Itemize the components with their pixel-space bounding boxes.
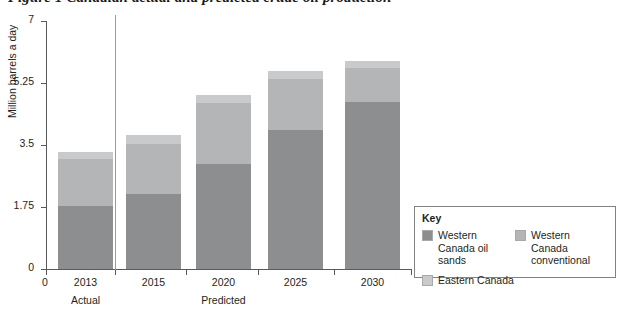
bar-segment-western-conventional: [345, 68, 400, 102]
x-label-2015: 2015: [126, 276, 181, 288]
x-tick-2020-boundary: [186, 270, 187, 275]
y-tick-label-1: 1.75: [14, 199, 34, 211]
bar-segment-eastern-canada: [345, 61, 400, 68]
plot-area: 0 1.75 3.5 5.25 7: [46, 21, 412, 270]
bar-2020[interactable]: [196, 95, 251, 269]
legend-row-2: Eastern Canada: [422, 274, 608, 287]
y-tick-label-2: 3.5: [19, 137, 34, 149]
actual-predicted-divider: [115, 15, 116, 270]
x-tick-origin: [46, 270, 47, 275]
x-origin-label: 0: [42, 276, 48, 288]
legend-swatch-icon-conventional: [515, 230, 526, 241]
y-tick-2: 3.5: [41, 145, 46, 146]
bar-segment-eastern-canada: [268, 71, 323, 79]
bar-2025[interactable]: [268, 71, 323, 269]
bar-segment-western-conventional: [268, 79, 323, 130]
x-tick-2030-boundary: [334, 270, 335, 275]
y-tick-label-0: 0: [28, 261, 34, 273]
bar-segment-eastern-canada: [196, 95, 251, 103]
legend: Key Western Canada oil sands Western Can…: [414, 206, 616, 278]
y-tick-4: 7: [41, 21, 46, 22]
legend-label-eastern-canada: Eastern Canada: [438, 274, 514, 287]
bar-segment-western-oil-sands: [268, 130, 323, 269]
bar-segment-eastern-canada: [58, 152, 113, 159]
bar-segment-western-oil-sands: [196, 164, 251, 269]
legend-title: Key: [422, 212, 608, 224]
x-axis-line: [46, 269, 412, 270]
bar-segment-western-oil-sands: [345, 102, 400, 269]
legend-item-western-oil-sands[interactable]: Western Canada oil sands: [422, 229, 515, 267]
y-axis-line: [46, 21, 47, 270]
x-label-2013: 2013: [58, 276, 113, 288]
legend-item-western-conventional[interactable]: Western Canada conventional: [515, 229, 608, 267]
bar-2015[interactable]: [126, 135, 181, 269]
legend-row-1: Western Canada oil sands Western Canada …: [422, 229, 608, 267]
period-label-predicted: Predicted: [196, 294, 251, 306]
legend-label-conventional: Western Canada conventional: [531, 229, 608, 267]
legend-swatch-icon-eastern-canada: [422, 275, 433, 286]
x-label-2030: 2030: [345, 276, 400, 288]
x-label-2025: 2025: [268, 276, 323, 288]
chart-title: Figure 1 Canadian actual and predicted c…: [8, 0, 391, 6]
x-tick-2025-boundary: [258, 270, 259, 275]
y-tick-1: 1.75: [41, 207, 46, 208]
y-axis-title: Million barrels a day: [6, 25, 18, 118]
legend-item-eastern-canada[interactable]: Eastern Canada: [422, 274, 515, 287]
y-tick-label-4: 7: [28, 13, 34, 25]
bar-segment-eastern-canada: [126, 135, 181, 144]
legend-label-oil-sands: Western Canada oil sands: [438, 229, 515, 267]
bar-2030[interactable]: [345, 61, 400, 269]
legend-swatch-icon-oil-sands: [422, 230, 433, 241]
y-tick-3: 5.25: [41, 83, 46, 84]
bar-segment-western-oil-sands: [58, 206, 113, 269]
period-label-actual: Actual: [58, 294, 113, 306]
x-tick-end: [411, 270, 412, 275]
x-tick-2015-boundary: [115, 270, 116, 275]
bar-2013[interactable]: [58, 152, 113, 269]
bar-segment-western-oil-sands: [126, 194, 181, 269]
bar-segment-western-conventional: [126, 144, 181, 194]
x-label-2020: 2020: [196, 276, 251, 288]
bar-segment-western-conventional: [196, 103, 251, 164]
bar-segment-western-conventional: [58, 159, 113, 206]
